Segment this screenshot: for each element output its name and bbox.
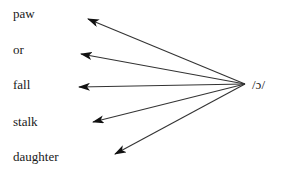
word-or: or bbox=[13, 43, 24, 56]
phoneme-mapping-diagram: paw or fall stalk daughter /ɔ/ bbox=[0, 0, 289, 176]
word-daughter: daughter bbox=[13, 150, 58, 163]
word-fall: fall bbox=[13, 78, 30, 91]
arrow-fall bbox=[79, 84, 245, 87]
word-paw: paw bbox=[13, 7, 35, 20]
arrow-daughter bbox=[115, 84, 245, 154]
arrow-or bbox=[81, 54, 245, 84]
word-stalk: stalk bbox=[13, 115, 38, 128]
arrow-paw bbox=[88, 19, 245, 84]
phoneme-label: /ɔ/ bbox=[252, 78, 265, 91]
arrow-stalk bbox=[93, 84, 245, 122]
